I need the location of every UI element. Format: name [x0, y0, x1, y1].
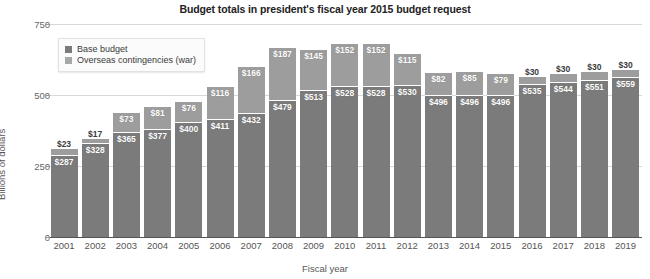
bar-segment-base[interactable]: $496 [487, 96, 514, 237]
bar-value-label: $479 [273, 101, 292, 112]
bar-stack[interactable]: $30$559 [612, 70, 639, 237]
bar-stack[interactable]: $82$496 [425, 73, 452, 237]
bar-stack[interactable]: $79$496 [487, 74, 514, 237]
bar-segment-base[interactable]: $544 [550, 83, 577, 237]
bar-value-label: $530 [398, 86, 417, 97]
bar-value-label: $76 [182, 102, 196, 113]
bar-stack[interactable]: $30$544 [550, 74, 577, 237]
x-axis-tick-label: 2003 [111, 240, 142, 251]
bar-segment-base[interactable]: $496 [425, 96, 452, 237]
bar-stack[interactable]: $81$377 [144, 107, 171, 237]
bar-segment-overseas[interactable]: $76 [175, 102, 202, 124]
bar-value-label: $79 [494, 74, 508, 85]
x-axis-tick-label: 2017 [548, 240, 579, 251]
bar-segment-base[interactable]: $377 [144, 130, 171, 237]
bar-value-label: $152 [367, 44, 386, 55]
bar-stack[interactable]: $73$365 [113, 113, 140, 237]
bar-segment-base[interactable]: $528 [331, 87, 358, 237]
bar-stack[interactable]: $30$535 [519, 77, 546, 237]
bar-stack[interactable]: $30$551 [581, 72, 608, 237]
bar-stack[interactable]: $76$400 [175, 102, 202, 237]
bar-segment-base[interactable]: $559 [612, 78, 639, 237]
bar-value-label: $496 [460, 96, 479, 107]
bar-segment-base[interactable]: $530 [394, 86, 421, 237]
bar-stack[interactable]: $115$530 [394, 54, 421, 237]
legend-swatch-icon [65, 57, 72, 64]
bar-value-label: $365 [117, 133, 136, 144]
bar-segment-base[interactable]: $411 [207, 120, 234, 237]
bar-value-label: $187 [273, 48, 292, 59]
gridline [50, 24, 642, 25]
bar-segment-overseas[interactable]: $30 [581, 72, 608, 81]
bar-value-label: $496 [491, 96, 510, 107]
bar-stack[interactable]: $152$528 [331, 44, 358, 237]
bar-segment-overseas[interactable]: $187 [269, 48, 296, 101]
bar-segment-overseas[interactable]: $152 [363, 44, 390, 87]
bar-stack[interactable]: $166$432 [238, 67, 265, 237]
bar-segment-base[interactable]: $479 [269, 101, 296, 237]
bar-segment-base[interactable]: $528 [363, 87, 390, 237]
chart-root: Budget totals in president's fiscal year… [0, 0, 650, 279]
bar-segment-base[interactable]: $535 [519, 85, 546, 237]
bar-segment-overseas[interactable]: $166 [238, 67, 265, 114]
bar-stack[interactable]: $152$528 [363, 44, 390, 237]
x-axis-tick-label: 2010 [329, 240, 360, 251]
legend-item-label: Base budget [77, 44, 128, 54]
bar-segment-base[interactable]: $328 [82, 144, 109, 237]
bar-value-label: $551 [585, 81, 604, 92]
bar-stack[interactable]: $23$287 [51, 149, 78, 237]
y-axis-tick-mark [46, 24, 50, 25]
y-axis-title: Billions of dollars [0, 129, 7, 200]
bar-value-label: $152 [335, 44, 354, 55]
x-axis-title: Fiscal year [0, 263, 650, 274]
bar-segment-overseas[interactable]: $30 [550, 74, 577, 83]
y-axis-tick-mark [46, 166, 50, 167]
y-axis-tick-mark [46, 95, 50, 96]
legend-item-overseas-contingencies[interactable]: Overseas contingencies (war) [65, 55, 196, 65]
x-axis-tick-label: 2015 [485, 240, 516, 251]
bar-value-label: $81 [151, 107, 165, 118]
bar-value-label: $513 [304, 91, 323, 102]
bar-stack[interactable]: $85$496 [456, 72, 483, 237]
bar-segment-overseas[interactable]: $115 [394, 54, 421, 87]
bar-segment-overseas[interactable]: $152 [331, 44, 358, 87]
x-axis-tick-label: 2009 [298, 240, 329, 251]
bar-segment-base[interactable]: $432 [238, 114, 265, 237]
bar-segment-overseas[interactable]: $30 [519, 77, 546, 86]
legend-item-base-budget[interactable]: Base budget [65, 44, 196, 54]
bar-segment-base[interactable]: $551 [581, 81, 608, 237]
bar-segment-overseas[interactable]: $82 [425, 73, 452, 96]
bar-segment-overseas[interactable]: $79 [487, 74, 514, 96]
bar-segment-base[interactable]: $513 [300, 91, 327, 237]
bar-stack[interactable]: $116$411 [207, 87, 234, 237]
bar-segment-overseas[interactable]: $145 [300, 50, 327, 91]
bar-value-label: $528 [367, 87, 386, 98]
x-axis-tick-label: 2004 [142, 240, 173, 251]
bar-segment-overseas[interactable]: $30 [612, 70, 639, 79]
bar-value-label: $432 [242, 114, 261, 125]
x-axis-tick-label: 2014 [454, 240, 485, 251]
bar-segment-overseas[interactable]: $73 [113, 113, 140, 134]
bar-stack[interactable]: $17$328 [82, 139, 109, 237]
bar-value-label: $30 [587, 61, 601, 72]
bar-value-label: $496 [429, 96, 448, 107]
x-axis-tick-label: 2016 [517, 240, 548, 251]
legend-swatch-icon [65, 46, 72, 53]
bar-value-label: $73 [119, 113, 133, 124]
bar-segment-base[interactable]: $365 [113, 133, 140, 237]
bar-value-label: $544 [554, 83, 573, 94]
bar-value-label: $17 [88, 128, 102, 139]
bar-segment-base[interactable]: $400 [175, 123, 202, 237]
bar-value-label: $116 [211, 87, 229, 98]
bar-segment-overseas[interactable]: $81 [144, 107, 171, 130]
bar-segment-overseas[interactable]: $116 [207, 87, 234, 120]
bar-segment-overseas[interactable]: $85 [456, 72, 483, 96]
bar-segment-base[interactable]: $496 [456, 96, 483, 237]
x-axis-tick-label: 2011 [361, 240, 392, 251]
bar-value-label: $328 [86, 144, 105, 155]
bar-segment-base[interactable]: $287 [51, 156, 78, 238]
bar-value-label: $377 [148, 130, 167, 141]
bar-stack[interactable]: $187$479 [269, 48, 296, 237]
bar-stack[interactable]: $145$513 [300, 50, 327, 237]
x-axis-tick-label: 2002 [80, 240, 111, 251]
